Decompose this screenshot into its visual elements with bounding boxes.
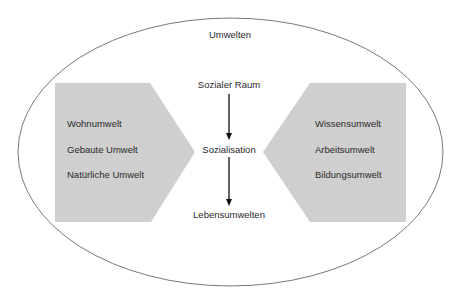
right-item: Arbeitsumwelt — [315, 145, 375, 155]
outer-label: Umwelten — [209, 30, 251, 40]
arrow-top — [226, 94, 232, 140]
center-label-lebensumwelten: Lebensumwelten — [193, 210, 265, 220]
left-item: Wohnumwelt — [67, 119, 122, 129]
arrow-bottom — [226, 157, 232, 206]
left-item: Gebaute Umwelt — [67, 145, 138, 155]
center-label-sozialer-raum: Sozialer Raum — [198, 80, 260, 90]
right-item: Wissensumwelt — [315, 119, 381, 129]
right-item: Bildungsumwelt — [315, 170, 382, 180]
left-item: Natürliche Umwelt — [67, 170, 144, 180]
center-label-sozialisation: Sozialisation — [202, 145, 255, 155]
